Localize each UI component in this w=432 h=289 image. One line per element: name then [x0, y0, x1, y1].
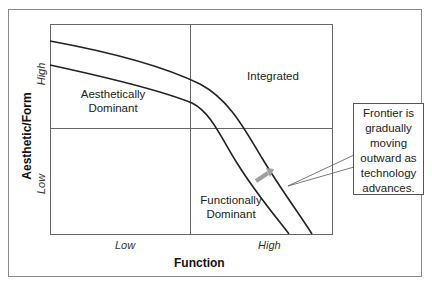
- y-tick-low: Low: [35, 169, 47, 199]
- y-tick-high: High: [35, 59, 47, 89]
- quadrant-label-integrated: Integrated: [228, 69, 318, 83]
- x-tick-high: High: [258, 239, 281, 251]
- callout-pointer: [288, 167, 354, 186]
- x-tick-low: Low: [115, 239, 135, 251]
- annotation-callout: Frontier is gradually moving outward as …: [353, 103, 424, 195]
- y-axis-title: Aesthetic/Form: [20, 86, 34, 186]
- quadrant-label-aesthetically-dominant: Aesthetically Dominant: [58, 87, 168, 115]
- callout-pointer: [288, 155, 354, 186]
- x-axis-title: Function: [174, 256, 225, 270]
- quadrant-label-functionally-dominant: Functionally Dominant: [192, 193, 270, 221]
- outward-arrow-icon: [256, 168, 274, 181]
